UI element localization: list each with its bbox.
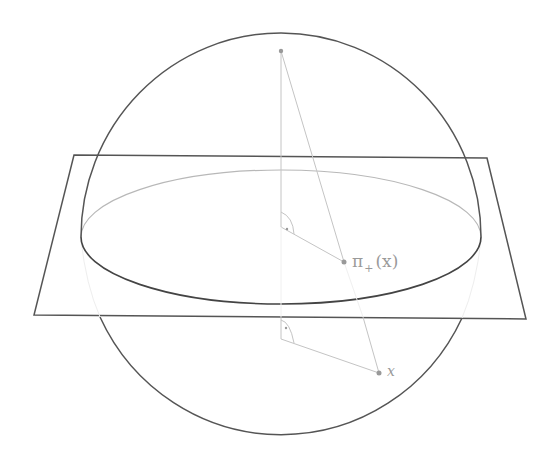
point-x-label: x (387, 364, 395, 378)
plane-segment-lower (281, 339, 379, 373)
sphere-projection-diagram (0, 0, 555, 461)
projection-symbol: π (352, 251, 363, 271)
ray-plane-to-x (363, 317, 379, 373)
sphere-lower-hidden-left (81, 240, 100, 317)
plane-segment-upper (281, 227, 344, 262)
equatorial-plane (34, 155, 526, 319)
north-pole-point (279, 49, 283, 53)
projected-point (342, 260, 347, 265)
right-angle-dot-lower (285, 327, 287, 329)
point-x (377, 371, 382, 376)
projection-argument: (x) (375, 251, 398, 271)
projection-subscript: + (364, 262, 373, 275)
right-angle-dot-upper (286, 228, 288, 230)
diagram-canvas: π+(x) x (0, 0, 555, 461)
sphere-lower-hidden-right (462, 240, 481, 318)
projection-label: π+(x) (352, 253, 398, 270)
